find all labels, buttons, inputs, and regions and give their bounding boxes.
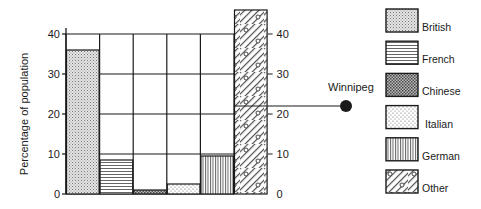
legend-swatch-british bbox=[386, 9, 418, 32]
bar-italian bbox=[167, 184, 200, 194]
right-tick-label: 10 bbox=[277, 148, 289, 160]
left-tick-label: 20 bbox=[48, 108, 60, 120]
left-tick-label: 10 bbox=[48, 148, 60, 160]
bar-chinese bbox=[134, 190, 167, 194]
chart: 010203040010203040 Winnipeg BritishFrenc… bbox=[0, 0, 481, 209]
legend-swatch-italian bbox=[386, 106, 418, 129]
legend-label-british: British bbox=[422, 21, 451, 33]
left-tick-label: 30 bbox=[48, 68, 60, 80]
bar-other bbox=[235, 10, 268, 194]
legend: BritishFrenchChineseItalianGermanOther bbox=[386, 9, 461, 194]
bar-french bbox=[100, 160, 133, 194]
winnipeg-label: Winnipeg bbox=[328, 81, 374, 93]
bar-german bbox=[201, 156, 234, 194]
right-tick-label: 0 bbox=[277, 188, 283, 200]
left-tick-label: 0 bbox=[54, 188, 60, 200]
legend-swatch-german bbox=[386, 138, 418, 161]
right-tick-label: 40 bbox=[277, 28, 289, 40]
winnipeg-marker bbox=[340, 100, 352, 112]
legend-label-french: French bbox=[422, 53, 455, 65]
legend-swatch-other bbox=[386, 170, 418, 193]
y-axis-label: Percentage of population bbox=[18, 53, 30, 175]
legend-label-german: German bbox=[422, 150, 460, 162]
left-tick-label: 40 bbox=[48, 28, 60, 40]
legend-swatch-french bbox=[386, 41, 418, 64]
legend-label-other: Other bbox=[422, 182, 449, 194]
legend-swatch-chinese bbox=[386, 73, 418, 96]
legend-label-italian: Italian bbox=[425, 118, 453, 130]
right-tick-label: 30 bbox=[277, 68, 289, 80]
right-tick-label: 20 bbox=[277, 108, 289, 120]
legend-label-chinese: Chinese bbox=[422, 85, 461, 97]
bar-british bbox=[67, 50, 100, 194]
